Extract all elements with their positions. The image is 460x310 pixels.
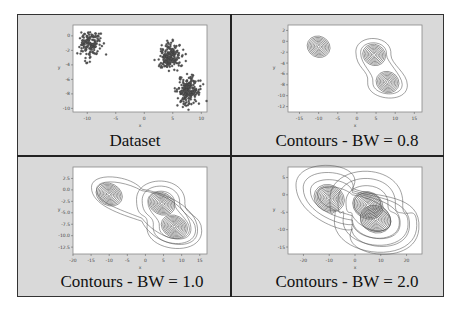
svg-text:-10: -10 <box>84 116 91 121</box>
svg-text:10: 10 <box>198 116 204 121</box>
caption-bw-2-0: Contours - BW = 2.0 <box>262 272 432 292</box>
svg-text:5: 5 <box>282 175 285 180</box>
svg-text:15: 15 <box>411 116 417 121</box>
svg-text:y: y <box>58 65 61 70</box>
horizontal-divider <box>17 155 444 157</box>
svg-text:-15: -15 <box>87 258 94 263</box>
svg-text:y: y <box>58 207 61 212</box>
svg-text:-20: -20 <box>300 258 307 263</box>
panel-bw-0-8: -15-10-505101520-2-4-6-8-10-12xy <box>270 20 430 134</box>
svg-text:10: 10 <box>378 258 384 263</box>
svg-text:0.0: 0.0 <box>63 187 70 192</box>
svg-text:-2.5: -2.5 <box>61 199 70 204</box>
svg-text:5: 5 <box>375 116 378 121</box>
contour-plot-bw-2-0: -20-100102050-5-10-15xy <box>270 162 430 272</box>
svg-text:-10: -10 <box>278 93 285 98</box>
svg-text:0: 0 <box>143 116 146 121</box>
svg-text:0: 0 <box>282 192 285 197</box>
svg-text:-12: -12 <box>278 104 285 109</box>
svg-text:-15: -15 <box>296 116 303 121</box>
svg-text:15: 15 <box>197 258 203 263</box>
panel-dataset: -10-505100-2-4-6-8-10xy <box>55 20 215 134</box>
svg-text:-10: -10 <box>278 227 285 232</box>
svg-text:0: 0 <box>354 258 357 263</box>
svg-text:-10: -10 <box>106 258 113 263</box>
svg-text:5: 5 <box>162 258 165 263</box>
svg-text:-10.0: -10.0 <box>58 233 70 238</box>
svg-text:2.5: 2.5 <box>63 176 70 181</box>
svg-text:y: y <box>273 207 276 212</box>
svg-text:-5: -5 <box>336 116 341 121</box>
svg-text:-8: -8 <box>281 82 286 87</box>
svg-text:-2: -2 <box>66 48 71 53</box>
svg-text:x: x <box>139 123 142 128</box>
svg-text:-20: -20 <box>69 258 76 263</box>
svg-text:-10: -10 <box>326 258 333 263</box>
svg-text:-5: -5 <box>125 258 130 263</box>
svg-text:-2: -2 <box>281 50 286 55</box>
svg-text:0: 0 <box>67 33 70 38</box>
svg-text:0: 0 <box>144 258 147 263</box>
panel-bw-1-0: -20-15-10-50510152.50.0-2.5-5.0-7.5-10.0… <box>55 162 215 276</box>
svg-text:-5: -5 <box>114 116 119 121</box>
svg-text:-15: -15 <box>278 245 285 250</box>
caption-dataset: Dataset <box>55 131 215 151</box>
svg-text:x: x <box>354 265 357 270</box>
caption-bw-1-0: Contours - BW = 1.0 <box>47 272 217 292</box>
contour-plot-bw-0-8: -15-10-505101520-2-4-6-8-10-12xy <box>270 20 430 130</box>
svg-text:x: x <box>354 123 357 128</box>
svg-text:5: 5 <box>171 116 174 121</box>
contour-plot-bw-1-0: -20-15-10-50510152.50.0-2.5-5.0-7.5-10.0… <box>55 162 215 272</box>
svg-text:-6: -6 <box>66 77 71 82</box>
svg-text:10: 10 <box>179 258 185 263</box>
svg-text:10: 10 <box>392 116 398 121</box>
svg-text:-6: -6 <box>281 71 286 76</box>
svg-text:-12.5: -12.5 <box>58 245 70 250</box>
scatter-plot: -10-505100-2-4-6-8-10xy <box>55 20 215 130</box>
svg-text:20: 20 <box>404 258 410 263</box>
panel-bw-2-0: -20-100102050-5-10-15xy <box>270 162 430 276</box>
svg-text:-4: -4 <box>66 62 71 67</box>
svg-text:2: 2 <box>282 28 285 33</box>
svg-text:-10: -10 <box>315 116 322 121</box>
caption-bw-0-8: Contours - BW = 0.8 <box>262 131 432 151</box>
svg-text:-5.0: -5.0 <box>61 210 70 215</box>
svg-text:-7.5: -7.5 <box>61 222 70 227</box>
svg-text:-5: -5 <box>281 210 286 215</box>
svg-text:-4: -4 <box>281 61 286 66</box>
svg-text:0: 0 <box>355 116 358 121</box>
svg-text:-10: -10 <box>63 106 70 111</box>
svg-text:0: 0 <box>282 39 285 44</box>
svg-text:y: y <box>273 65 276 70</box>
svg-text:x: x <box>139 265 142 270</box>
svg-text:-8: -8 <box>66 91 71 96</box>
